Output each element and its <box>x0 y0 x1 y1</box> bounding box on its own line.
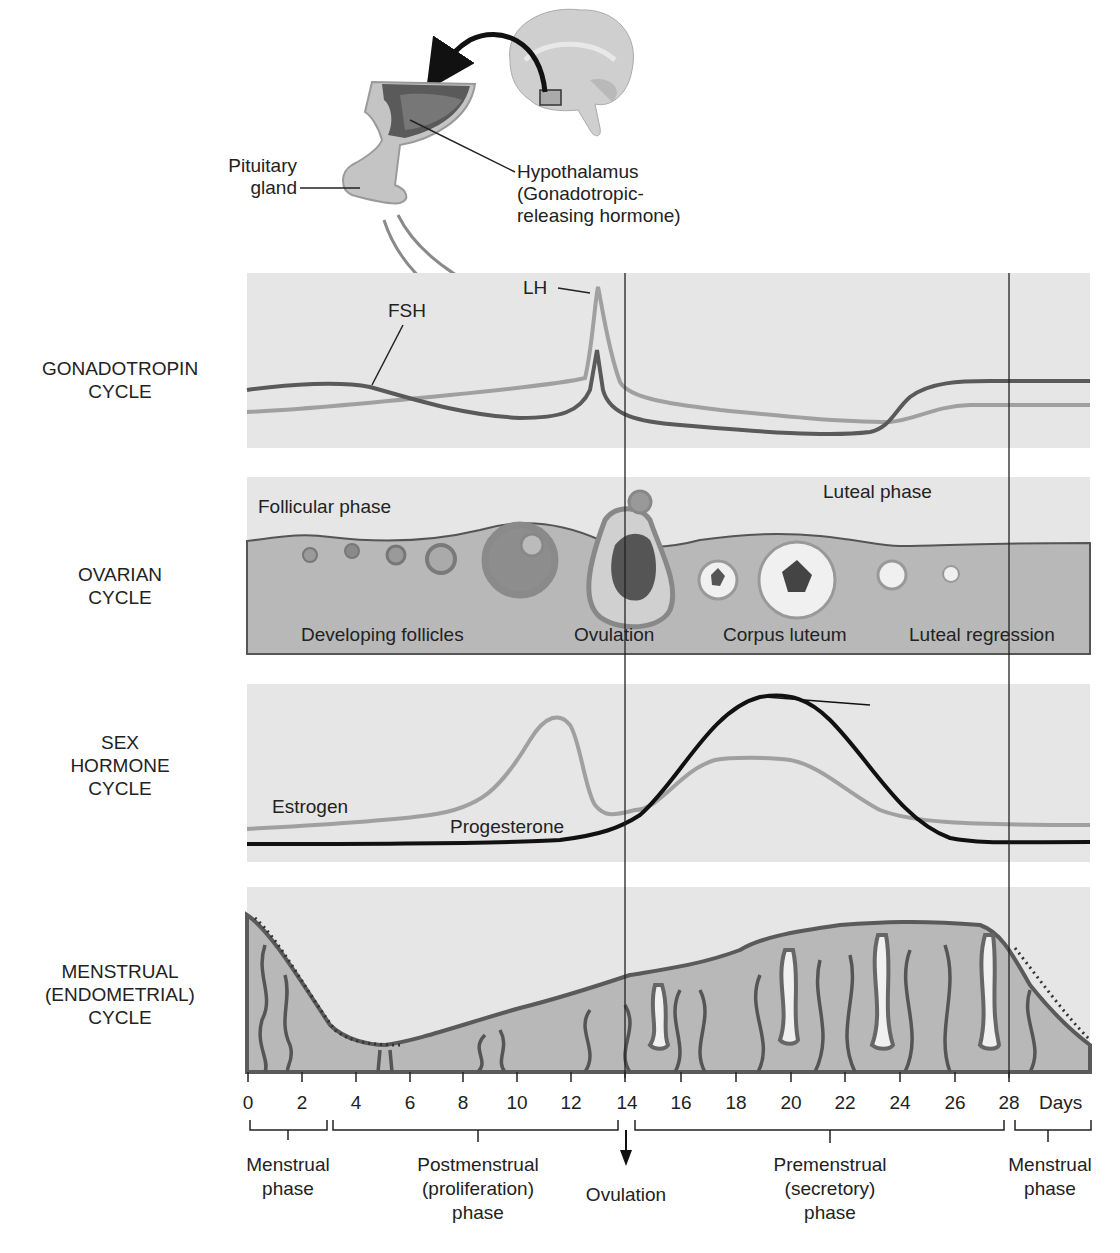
tick-label: 2 <box>287 1092 317 1114</box>
lh-label: LH <box>523 277 547 299</box>
pituitary-label-line2: gland <box>213 177 297 199</box>
phase-line: Ovulation <box>566 1183 686 1207</box>
hypothalamus-label-line1: Hypothalamus <box>517 161 681 183</box>
phase-line: phase <box>398 1201 558 1225</box>
progesterone-label: Progesterone <box>450 816 564 838</box>
sex-hormone-cycle-title: SEX HORMONE CYCLE <box>0 731 240 800</box>
phase-line: (secretory) <box>750 1177 910 1201</box>
title-line: HORMONE <box>0 754 240 777</box>
tick-label: 4 <box>341 1092 371 1114</box>
postmenstrual-phase-label: Postmenstrual (proliferation) phase <box>398 1153 558 1225</box>
luteal-regression-label: Luteal regression <box>909 624 1055 646</box>
follicular-phase-label: Follicular phase <box>258 496 391 518</box>
tick-label: 22 <box>830 1092 860 1114</box>
phase-line: phase <box>990 1177 1110 1201</box>
ovarian-cycle-title: OVARIAN CYCLE <box>0 563 240 609</box>
title-line: MENSTRUAL <box>0 960 240 983</box>
developing-follicles-label: Developing follicles <box>301 624 464 646</box>
estrogen-label: Estrogen <box>272 796 348 818</box>
days-axis-label: Days <box>1039 1092 1082 1114</box>
title-line: OVARIAN <box>0 563 240 586</box>
hypothalamus-label: Hypothalamus (Gonadotropic- releasing ho… <box>517 161 681 227</box>
fsh-label: FSH <box>388 300 426 322</box>
tick-label: 0 <box>233 1092 263 1114</box>
phase-line: Menstrual <box>990 1153 1110 1177</box>
hypothalamus-highlight-box <box>540 90 561 105</box>
gonadotropin-panel <box>247 273 1090 448</box>
ovulation-day-label: Ovulation <box>566 1183 686 1207</box>
title-line: CYCLE <box>0 1006 240 1029</box>
tick-label: 20 <box>776 1092 806 1114</box>
luteal-phase-label: Luteal phase <box>823 481 932 503</box>
tick-label: 10 <box>502 1092 532 1114</box>
tick-label: 26 <box>940 1092 970 1114</box>
premenstrual-phase-label: Premenstrual (secretory) phase <box>750 1153 910 1225</box>
title-line: CYCLE <box>0 586 240 609</box>
tick-label: 24 <box>885 1092 915 1114</box>
phase-line: phase <box>750 1201 910 1225</box>
tick-label: 28 <box>994 1092 1024 1114</box>
pituitary-label: Pituitary gland <box>213 155 297 199</box>
ovulation-stage-label: Ovulation <box>574 624 654 646</box>
phase-line: (proliferation) <box>398 1177 558 1201</box>
ovulation-arrow-icon <box>620 1150 632 1166</box>
tick-label: 14 <box>612 1092 642 1114</box>
phase-brackets <box>250 1120 1091 1143</box>
title-line: GONADOTROPIN <box>0 357 240 380</box>
tick-label: 8 <box>448 1092 478 1114</box>
phase-line: Postmenstrual <box>398 1153 558 1177</box>
title-line: SEX <box>0 731 240 754</box>
title-line: CYCLE <box>0 380 240 403</box>
tick-label: 12 <box>556 1092 586 1114</box>
hypothalamus-label-line3: releasing hormone) <box>517 205 681 227</box>
phase-line: Premenstrual <box>750 1153 910 1177</box>
phase-line: Menstrual <box>228 1153 348 1177</box>
pituitary-label-line1: Pituitary <box>213 155 297 177</box>
phase-line: phase <box>228 1177 348 1201</box>
corpus-luteum-label: Corpus luteum <box>723 624 847 646</box>
title-line: (ENDOMETRIAL) <box>0 983 240 1006</box>
gonadotropin-cycle-title: GONADOTROPIN CYCLE <box>0 357 240 403</box>
brain-icon <box>510 9 634 136</box>
tick-label: 18 <box>721 1092 751 1114</box>
title-line: CYCLE <box>0 777 240 800</box>
tick-label: 16 <box>666 1092 696 1114</box>
sex-hormone-panel <box>247 684 1090 862</box>
tick-label: 6 <box>395 1092 425 1114</box>
hypothalamus-label-line2: (Gonadotropic- <box>517 183 681 205</box>
menstrual-cycle-title: MENSTRUAL (ENDOMETRIAL) CYCLE <box>0 960 240 1029</box>
hypothalamus-leader-line <box>410 120 515 172</box>
menstrual-phase-label-end: Menstrual phase <box>990 1153 1110 1201</box>
menstrual-phase-label-start: Menstrual phase <box>228 1153 348 1201</box>
